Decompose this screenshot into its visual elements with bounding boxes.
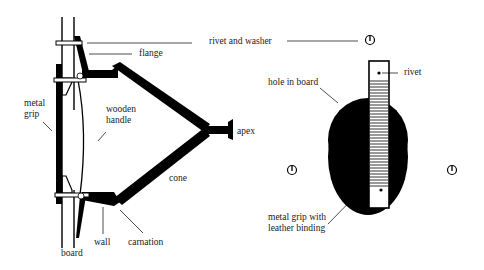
label-wall: wall [94, 237, 110, 248]
cone-wall [74, 36, 233, 238]
washer-icon-left [288, 166, 297, 175]
label-apex: apex [237, 126, 255, 137]
label-board: board [61, 248, 83, 259]
metal-grip-strap [369, 61, 389, 208]
hole-in-board-disc [328, 98, 408, 215]
washer-icon-right [448, 166, 457, 175]
wooden-handle [78, 80, 84, 195]
washer-icon-top [366, 36, 375, 45]
label-metal-grip: metal grip [24, 98, 45, 120]
label-rivet: rivet [404, 67, 421, 78]
label-carnation: carnation [128, 237, 163, 248]
board-cross-section [56, 17, 74, 248]
label-metal-grip-with-leather-binding: metal grip with leather binding [268, 212, 326, 234]
label-wooden-handle: wooden handle [106, 104, 136, 126]
label-cone: cone [169, 173, 187, 184]
label-flange: flange [139, 48, 163, 59]
label-rivet-and-washer: rivet and washer [209, 36, 272, 47]
label-hole-in-board: hole in board [268, 77, 318, 88]
diagram-canvas: rivet and washer flange metal grip woode… [0, 0, 484, 270]
